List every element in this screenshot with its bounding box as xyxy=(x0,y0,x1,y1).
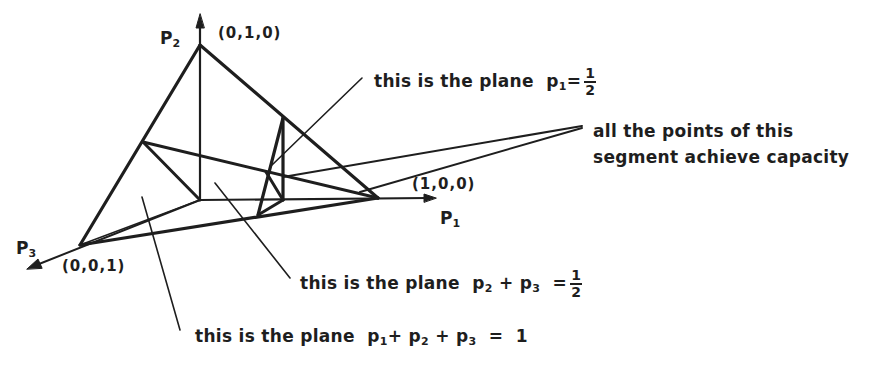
plane-p2p3-edge-a xyxy=(143,142,378,198)
vertex-label-010: (0,1,0) xyxy=(218,26,281,41)
p1-arrow-icon xyxy=(424,194,436,202)
guide-line-a xyxy=(80,200,200,245)
p2-arrow-icon xyxy=(196,14,204,28)
capacity-leader-upper xyxy=(283,126,582,177)
p3-axis-label: P3 xyxy=(16,240,36,259)
leader-plane-p2p3 xyxy=(215,183,290,278)
leader-plane-sum xyxy=(142,197,180,330)
annotation-segment-capacity: all the points of this segment achieve c… xyxy=(593,118,849,170)
simplex-edge-bottom xyxy=(80,198,378,245)
annotation-plane-p2p3-half: this is the plane p2 + p3 =12 xyxy=(300,268,582,301)
p2-axis-label: P2 xyxy=(160,30,180,49)
simplex-edge-left xyxy=(80,45,200,245)
p1-axis-label: P1 xyxy=(440,210,460,229)
plane-p2p3-edge-b xyxy=(143,142,200,200)
vertex-label-100: (1,0,0) xyxy=(412,177,475,192)
annotation-plane-sum-one: this is the plane p1+ p2 + p3 = 1 xyxy=(195,328,528,347)
p3-arrow-icon xyxy=(27,259,42,269)
annotation-plane-p1-half: this is the plane p1=12 xyxy=(374,66,596,99)
p1-axis xyxy=(200,198,428,200)
leader-plane-p1 xyxy=(272,78,362,165)
vertex-label-001: (0,0,1) xyxy=(62,259,125,274)
